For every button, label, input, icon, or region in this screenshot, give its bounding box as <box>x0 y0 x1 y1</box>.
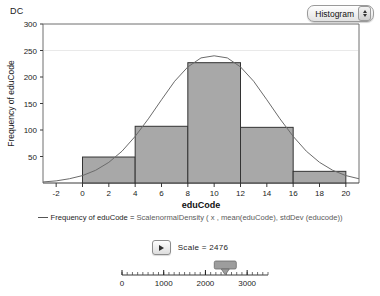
x-tick-label: 2 <box>107 189 112 198</box>
y-tick-label: 50 <box>28 153 37 162</box>
x-tick-label: 8 <box>186 189 191 198</box>
slider-tick-label: 1000 <box>155 279 173 288</box>
bars <box>83 63 346 183</box>
scale-control: Scale = 2476 <box>0 240 380 255</box>
x-tick-label: 16 <box>289 189 298 198</box>
legend-scale-word: Scale <box>136 213 155 222</box>
scale-value-label: Scale = 2476 <box>178 243 229 252</box>
histogram-bar <box>241 127 294 183</box>
play-button[interactable] <box>152 240 171 255</box>
plot-area[interactable]: 50100150200250300Frequency of eduCode-20… <box>0 0 380 210</box>
x-tick-label: -2 <box>53 189 61 198</box>
slider-thumb <box>214 261 236 275</box>
x-tick-label: 10 <box>210 189 219 198</box>
scale-slider[interactable]: 0100020003000 <box>0 258 380 296</box>
legend-line-marker <box>38 217 48 218</box>
legend: Frequency of eduCode = ScalenormalDensit… <box>0 213 380 222</box>
x-tick-label: 14 <box>262 189 271 198</box>
histogram-bar <box>83 157 136 183</box>
y-tick-label: 250 <box>24 47 38 56</box>
x-tick-label: 18 <box>315 189 324 198</box>
histogram-app: DC Histogram 50100150200250300Frequency … <box>0 0 380 296</box>
y-tick-label: 300 <box>24 20 38 29</box>
y-axis-title: Frequency of eduCode <box>6 60 16 147</box>
legend-text: Frequency of eduCode = <box>51 213 137 222</box>
x-tick-label: 20 <box>341 189 350 198</box>
histogram-svg: 50100150200250300Frequency of eduCode-20… <box>0 0 380 210</box>
slider-tick-label: 2000 <box>197 279 215 288</box>
x-tick-label: 0 <box>80 189 85 198</box>
x-axis-title: eduCode <box>182 200 221 210</box>
legend-function: normalDensity ( x , mean(eduCode), stdDe… <box>155 213 342 222</box>
slider-tick-label: 0 <box>120 279 125 288</box>
play-icon <box>159 245 164 251</box>
y-tick-label: 150 <box>24 100 38 109</box>
slider-tick-label: 3000 <box>238 279 256 288</box>
histogram-bar <box>135 126 188 183</box>
x-tick-label: 6 <box>159 189 164 198</box>
histogram-bar <box>188 63 241 183</box>
y-tick-label: 100 <box>24 126 38 135</box>
slider-svg[interactable]: 0100020003000 <box>0 258 380 296</box>
x-tick-label: 4 <box>133 189 138 198</box>
y-tick-label: 200 <box>24 73 38 82</box>
histogram-bar <box>293 171 346 183</box>
x-tick-label: 12 <box>236 189 245 198</box>
